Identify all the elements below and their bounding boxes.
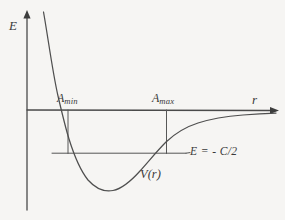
amax-label: Amax: [152, 92, 174, 106]
potential-energy-diagram: E r Amin Amax E = - C/2 V(r): [0, 0, 285, 220]
curve-label-base: V: [140, 167, 148, 181]
curve-label: V(r): [140, 168, 161, 181]
x-axis-label: r: [252, 93, 257, 106]
arrow-up-icon: [23, 10, 30, 19]
amin-subscript: min: [64, 96, 78, 106]
diagram-canvas: [0, 0, 285, 220]
curve-label-argument: (r): [148, 167, 161, 181]
amax-subscript: max: [159, 96, 174, 106]
energy-level-label: E = - C/2: [190, 146, 237, 158]
amin-label: Amin: [57, 92, 78, 106]
x-axis-line: [27, 110, 272, 111]
y-axis-label: E: [9, 19, 17, 32]
